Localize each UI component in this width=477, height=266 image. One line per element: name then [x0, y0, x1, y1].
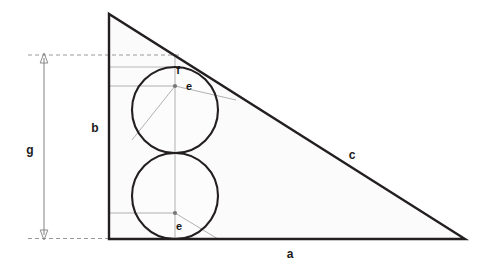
geometry-canvas: a b c g f e e	[0, 0, 477, 266]
upper-circle-center-dot	[173, 84, 177, 88]
label-side-a: a	[287, 247, 294, 261]
label-height-g: g	[26, 143, 33, 157]
lower-circle-center-dot	[173, 211, 177, 215]
geometry-figure: a b c g f e e	[0, 0, 477, 266]
label-upper-center-e: e	[186, 80, 192, 92]
label-radius-f: f	[176, 64, 180, 76]
label-side-b: b	[91, 121, 98, 135]
dimension-g	[40, 53, 48, 240]
label-side-c: c	[349, 148, 356, 162]
label-lower-center-e: e	[176, 220, 182, 232]
